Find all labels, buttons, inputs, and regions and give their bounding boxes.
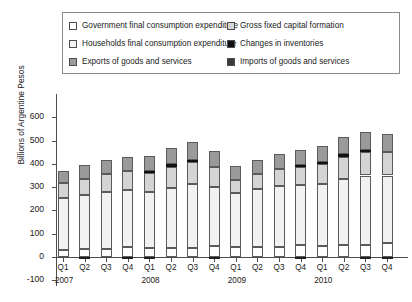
bar-8 [230, 0, 241, 302]
y-tick-label-600: 600 [12, 112, 44, 121]
bar-segment-gfcf-9 [252, 174, 263, 188]
bar-segment-government-0 [58, 250, 69, 257]
bar-segment-imports-1 [79, 257, 90, 259]
y-tick-mark-300 [52, 187, 56, 188]
y-tick-label-100: 100 [12, 229, 44, 238]
bar-segment-exports-11 [295, 150, 306, 164]
bar-3 [122, 0, 133, 302]
bar-segment-inventories-5 [166, 164, 177, 166]
y-tick-mark-100 [52, 234, 56, 235]
legend-swatch-government [69, 22, 77, 30]
y-tick-mark-200 [52, 210, 56, 211]
legend-swatch-exports [69, 58, 77, 66]
bar-segment-inventories-13 [338, 154, 349, 157]
bar-segment-government-1 [79, 249, 90, 257]
bar-segment-exports-8 [230, 166, 241, 180]
bar-segment-households-8 [230, 193, 241, 247]
bar-segment-exports-5 [166, 148, 177, 165]
bar-segment-households-15 [382, 176, 393, 244]
bar-segment-government-2 [101, 249, 112, 257]
bar-5 [166, 0, 177, 302]
bar-segment-government-14 [360, 245, 371, 257]
bar-segment-imports-4 [144, 257, 155, 259]
bar-segment-exports-2 [101, 160, 112, 174]
bar-segment-inventories-6 [187, 160, 198, 162]
bar-4 [144, 0, 155, 302]
bar-segment-households-1 [79, 195, 90, 249]
bar-segment-households-13 [338, 179, 349, 245]
bar-segment-gfcf-7 [209, 167, 220, 187]
bar-15 [382, 0, 393, 302]
y-tick-mark-600 [52, 117, 56, 118]
bar-segment-inventories-12 [317, 162, 328, 164]
bar-segment-gfcf-10 [274, 169, 285, 185]
bar-segment-households-12 [317, 184, 328, 246]
bar-segment-imports-14 [360, 257, 371, 259]
bar-segment-exports-6 [187, 142, 198, 159]
bar-segment-gfcf-5 [166, 167, 177, 188]
bar-segment-exports-13 [338, 137, 349, 154]
bar-7 [209, 0, 220, 302]
bar-segment-imports-11 [295, 257, 306, 259]
y-tick-label-500: 500 [12, 136, 44, 145]
bar-segment-exports-3 [122, 157, 133, 171]
bar-segment-households-0 [58, 198, 69, 250]
bar-6 [187, 0, 198, 302]
bar-segment-exports-12 [317, 146, 328, 162]
y-tick-mark-400 [52, 164, 56, 165]
bar-13 [338, 0, 349, 302]
bar-10 [274, 0, 285, 302]
bar-segment-households-7 [209, 187, 220, 246]
bar-segment-exports-9 [252, 160, 263, 174]
bar-segment-government-12 [317, 246, 328, 257]
bar-segment-gfcf-8 [230, 180, 241, 193]
legend-swatch-households [69, 40, 77, 48]
bar-segment-gfcf-11 [295, 167, 306, 185]
y-tick-label-200: 200 [12, 205, 44, 214]
chart-container: Government final consumption expenditure… [0, 0, 412, 302]
bar-segment-government-3 [122, 247, 133, 257]
bar-segment-government-11 [295, 245, 306, 257]
bar-segment-government-15 [382, 243, 393, 257]
bar-segment-households-11 [295, 185, 306, 244]
bar-segment-gfcf-3 [122, 171, 133, 190]
bar-segment-households-4 [144, 192, 155, 248]
bar-segment-gfcf-1 [79, 179, 90, 195]
bar-segment-government-6 [187, 248, 198, 257]
bar-segment-government-13 [338, 245, 349, 257]
bar-segment-exports-7 [209, 151, 220, 167]
bar-9 [252, 0, 263, 302]
bar-11 [295, 0, 306, 302]
bar-12 [317, 0, 328, 302]
bar-0 [58, 0, 69, 302]
bar-segment-gfcf-2 [101, 174, 112, 192]
bar-segment-imports-15 [382, 257, 393, 259]
y-tick-label-400: 400 [12, 159, 44, 168]
bar-segment-gfcf-13 [338, 157, 349, 179]
y-tick-mark-0 [52, 257, 56, 258]
y-tick-mark--100 [52, 280, 56, 281]
bar-segment-gfcf-14 [360, 152, 371, 175]
bar-segment-exports-1 [79, 165, 90, 179]
bar-segment-government-5 [166, 248, 177, 257]
bar-segment-inventories-11 [295, 165, 306, 167]
bar-segment-exports-15 [382, 134, 393, 153]
bar-segment-exports-10 [274, 154, 285, 169]
bar-segment-inventories-4 [144, 171, 155, 173]
bar-segment-imports-7 [209, 257, 220, 259]
bar-segment-households-6 [187, 184, 198, 247]
bar-segment-government-9 [252, 247, 263, 257]
bar-segment-households-5 [166, 188, 177, 248]
y-tick-mark-500 [52, 141, 56, 142]
bar-segment-exports-0 [58, 171, 69, 183]
bar-14 [360, 0, 371, 302]
bar-segment-government-4 [144, 248, 155, 257]
y-axis-ticks: 6005004003002001000-100 [10, 0, 44, 302]
y-tick-label--100: -100 [12, 275, 44, 284]
bar-segment-gfcf-15 [382, 152, 393, 175]
bar-segment-inventories-14 [360, 150, 371, 152]
bar-segment-households-3 [122, 190, 133, 247]
bar-segment-government-10 [274, 247, 285, 257]
bar-segment-gfcf-0 [58, 183, 69, 197]
bar-2 [101, 0, 112, 302]
